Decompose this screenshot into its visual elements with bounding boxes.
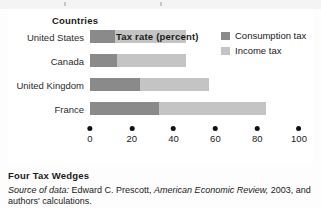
tick-dot-icon <box>129 126 134 131</box>
x-axis-tick-label: 80 <box>252 133 263 144</box>
x-axis-tick-label: 0 <box>87 133 92 144</box>
figure-source-note: Source of data: Edward C. Prescott, Amer… <box>8 185 313 207</box>
x-axis-tick: 40 <box>168 126 179 144</box>
x-axis-tick: 0 <box>87 126 92 144</box>
x-axis-tick-label: 100 <box>291 133 307 144</box>
chart-panel: Countries United StatesCanadaUnited King… <box>8 9 313 164</box>
tick-dot-icon <box>296 126 301 131</box>
bar-segment-consumption-tax <box>90 30 115 43</box>
tick-dot-icon <box>213 126 218 131</box>
x-axis-tick-label: 20 <box>127 133 138 144</box>
bar-segment-income-tax <box>117 54 186 67</box>
tick-dot-icon <box>171 126 176 131</box>
tick-dot-icon <box>255 126 260 131</box>
x-axis: 020406080100 <box>8 126 313 156</box>
bar-segment-income-tax <box>140 78 209 91</box>
legend-label: Consumption tax <box>235 30 306 41</box>
bar-row: France <box>90 102 266 115</box>
scan-artifact-band <box>0 0 321 9</box>
bar-category-label: United States <box>27 31 84 42</box>
legend-swatch-income-tax <box>221 47 230 55</box>
bar-category-label: France <box>54 103 84 114</box>
source-label: Source of data: <box>8 185 69 195</box>
bar-segment-income-tax <box>159 102 266 115</box>
bar-category-label: United Kingdom <box>16 79 84 90</box>
tick-dot-icon <box>87 126 92 131</box>
x-axis-tick: 60 <box>210 126 221 144</box>
source-author: Edward C. Prescott, <box>72 185 152 195</box>
bar-segment-consumption-tax <box>90 102 159 115</box>
source-year: 2003, <box>271 185 294 195</box>
scan-speck <box>160 2 162 6</box>
legend-item-income-tax: Income tax <box>221 45 306 56</box>
source-journal: American Economic Review, <box>154 185 268 195</box>
chart-legend: Consumption taxIncome tax <box>221 30 306 60</box>
x-axis-tick: 80 <box>252 126 263 144</box>
scan-speck <box>64 2 66 6</box>
x-axis-tick: 20 <box>127 126 138 144</box>
bar-category-label: Canada <box>51 55 84 66</box>
bar-row: Canada <box>90 54 186 67</box>
bar-segment-consumption-tax <box>90 78 140 91</box>
x-axis-tick-label: 60 <box>210 133 221 144</box>
x-axis-tick-label: 40 <box>168 133 179 144</box>
legend-label: Income tax <box>235 45 281 56</box>
figure-root: Countries United StatesCanadaUnited King… <box>0 0 321 208</box>
x-axis-tick: 100 <box>291 126 307 144</box>
bar-row: United Kingdom <box>90 78 209 91</box>
bar-segment-consumption-tax <box>90 54 117 67</box>
figure-caption-title: Four Tax Wedges <box>8 170 89 181</box>
legend-swatch-consumption-tax <box>221 32 230 40</box>
legend-item-consumption-tax: Consumption tax <box>221 30 306 41</box>
x-axis-title: Tax rate (percent) <box>116 31 199 42</box>
